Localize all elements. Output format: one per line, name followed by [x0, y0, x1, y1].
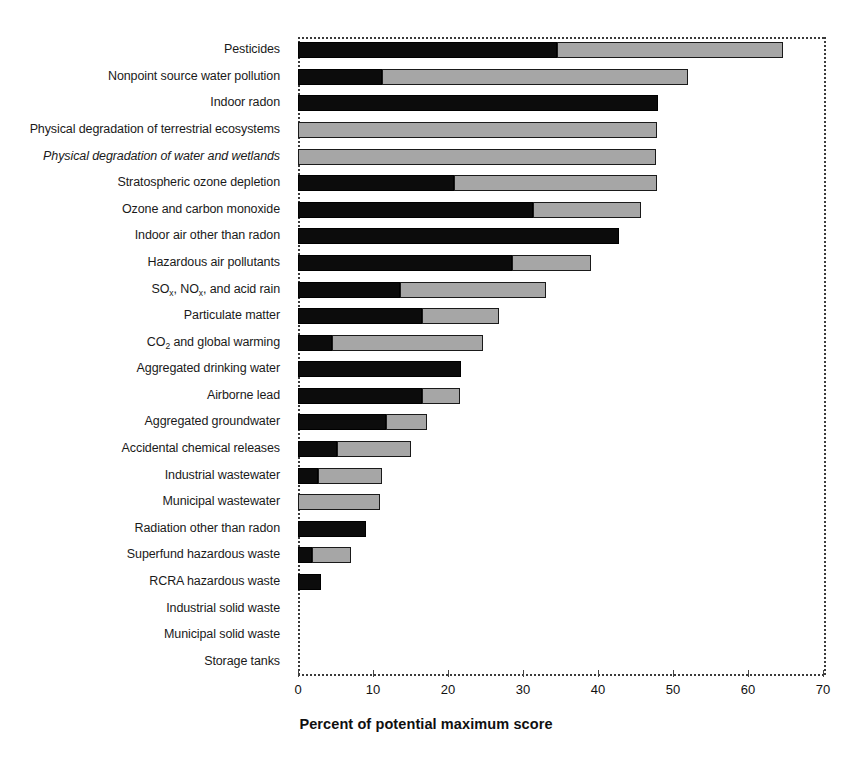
- bar-segment-human-health: [298, 282, 400, 298]
- bar-segment-ecology: [557, 42, 784, 58]
- bar-segment-human-health: [298, 521, 366, 537]
- category-label: Physical degradation of water and wetlan…: [0, 150, 280, 163]
- bar-row: [298, 601, 299, 617]
- category-label: Stratospheric ozone depletion: [0, 176, 280, 189]
- category-label: Ozone and carbon monoxide: [0, 203, 280, 216]
- x-tick-label: 60: [741, 682, 755, 697]
- bar-segment-ecology: [298, 149, 656, 165]
- category-label: Municipal wastewater: [0, 495, 280, 508]
- bar-segment-human-health: [298, 361, 461, 377]
- bar-row: [298, 388, 460, 404]
- category-label: Aggregated groundwater: [0, 415, 280, 428]
- bar-segment-ecology: [382, 69, 688, 85]
- bar-row: [298, 149, 656, 165]
- category-label: Municipal solid waste: [0, 628, 280, 641]
- bar-row: [298, 468, 382, 484]
- bar-row: [298, 627, 299, 643]
- x-tick-label: 50: [666, 682, 680, 697]
- bar-segment-human-health: [298, 95, 658, 111]
- plot-area: Ecology Human health: [298, 37, 825, 675]
- bar-segment-human-health: [298, 574, 321, 590]
- bar-segment-human-health: [298, 255, 512, 271]
- bar-row: [298, 521, 366, 537]
- category-label: Particulate matter: [0, 309, 280, 322]
- bar-segment-human-health: [298, 308, 422, 324]
- bar-segment-ecology: [400, 282, 546, 298]
- bar-row: [298, 122, 657, 138]
- bar-segment-human-health: [298, 414, 386, 430]
- horizontal-stacked-bar-chart: PesticidesNonpoint source water pollutio…: [0, 0, 852, 759]
- bar-segment-human-health: [298, 388, 422, 404]
- category-label: Storage tanks: [0, 655, 280, 668]
- bar-segment-ecology: [337, 441, 411, 457]
- x-tick-label: 0: [294, 682, 301, 697]
- bar-segment-human-health: [298, 175, 454, 191]
- bar-segment-human-health: [298, 441, 337, 457]
- bar-row: [298, 441, 411, 457]
- plot-right-border: [824, 37, 826, 676]
- bar-segment-human-health: [298, 202, 533, 218]
- x-tick-label: 40: [591, 682, 605, 697]
- category-label: Nonpoint source water pollution: [0, 70, 280, 83]
- bar-row: [298, 308, 499, 324]
- bar-segment-ecology: [422, 388, 460, 404]
- bar-segment-human-health: [298, 335, 332, 351]
- bar-row: [298, 335, 483, 351]
- x-axis-title: Percent of potential maximum score: [0, 716, 852, 732]
- bar-row: [298, 414, 427, 430]
- x-tick-mark: [373, 670, 374, 677]
- x-tick-mark: [748, 670, 749, 677]
- bar-segment-human-health: [298, 228, 619, 244]
- bar-row: [298, 654, 299, 670]
- bar-row: [298, 202, 641, 218]
- bar-segment-ecology: [533, 202, 641, 218]
- x-tick-mark: [298, 670, 299, 677]
- x-tick-mark: [598, 670, 599, 677]
- bar-segment-human-health: [298, 547, 312, 563]
- bar-row: [298, 494, 380, 510]
- x-tick-mark: [448, 670, 449, 677]
- category-label: SOx, NOx, and acid rain: [0, 283, 280, 297]
- category-label: CO2 and global warming: [0, 336, 280, 350]
- category-label: Indoor air other than radon: [0, 229, 280, 242]
- bar-row: [298, 69, 688, 85]
- bar-segment-ecology: [422, 308, 499, 324]
- category-axis-labels: PesticidesNonpoint source water pollutio…: [0, 37, 288, 675]
- x-tick-mark: [673, 670, 674, 677]
- bar-row: [298, 228, 619, 244]
- bar-segment-human-health: [298, 69, 382, 85]
- category-label: Hazardous air pollutants: [0, 256, 280, 269]
- category-label: Physical degradation of terrestrial ecos…: [0, 123, 280, 136]
- bar-row: [298, 361, 461, 377]
- bar-segment-ecology: [298, 494, 380, 510]
- bar-segment-human-health: [298, 42, 557, 58]
- bar-segment-ecology: [312, 547, 351, 563]
- category-label: Industrial wastewater: [0, 469, 280, 482]
- category-label: Aggregated drinking water: [0, 362, 280, 375]
- bar-segment-human-health: [298, 468, 318, 484]
- x-tick-label: 10: [366, 682, 380, 697]
- category-label: Indoor radon: [0, 96, 280, 109]
- bar-row: [298, 547, 351, 563]
- category-label: Superfund hazardous waste: [0, 548, 280, 561]
- x-tick-label: 20: [441, 682, 455, 697]
- bar-segment-ecology: [512, 255, 592, 271]
- category-label: Pesticides: [0, 43, 280, 56]
- x-tick-mark: [823, 670, 824, 677]
- category-label: RCRA hazardous waste: [0, 575, 280, 588]
- plot-top-border: [298, 37, 826, 39]
- bar-segment-ecology: [332, 335, 484, 351]
- bar-row: [298, 255, 591, 271]
- bar-row: [298, 95, 658, 111]
- x-tick-mark: [523, 670, 524, 677]
- category-label: Industrial solid waste: [0, 602, 280, 615]
- category-label: Radiation other than radon: [0, 522, 280, 535]
- bar-segment-ecology: [298, 122, 657, 138]
- category-label: Airborne lead: [0, 389, 280, 402]
- category-label: Accidental chemical releases: [0, 442, 280, 455]
- bar-segment-ecology: [386, 414, 427, 430]
- bar-row: [298, 175, 657, 191]
- bar-row: [298, 282, 546, 298]
- x-axis-line: [298, 674, 826, 676]
- bar-segment-ecology: [454, 175, 657, 191]
